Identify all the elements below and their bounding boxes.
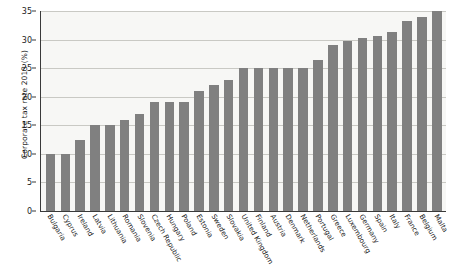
bar[interactable] [224,80,234,211]
bar-slot[interactable] [58,11,73,211]
x-label-slot: Poland [176,213,191,275]
x-label-slot: Luxembourg [339,213,354,275]
bar[interactable] [254,68,264,211]
y-axis-tick-mark [32,153,36,154]
x-label-slot: Finland [250,213,265,275]
x-label-slot: United Kingdom [235,213,250,275]
x-label-slot: Latvia [87,213,102,275]
x-label-slot: Slovakia [220,213,235,275]
x-label-slot: Estonia [191,213,206,275]
bar[interactable] [432,11,442,211]
bar-slot[interactable] [102,11,117,211]
bar[interactable] [194,91,204,211]
bar-slot[interactable] [251,11,266,211]
y-axis-tick-label: 15 [22,121,32,130]
y-axis-tick-mark [32,68,36,69]
bar[interactable] [120,120,130,211]
bar[interactable] [61,154,71,211]
bar-slot[interactable] [385,11,400,211]
bar-slot[interactable] [325,11,340,211]
x-label-slot: Greece [324,213,339,275]
bar[interactable] [283,68,293,211]
plot-area [40,11,446,212]
x-label-slot: Netherlands [295,213,310,275]
bar[interactable] [165,102,175,211]
x-label-slot: Denmark [280,213,295,275]
bar-slot[interactable] [88,11,103,211]
bar-slot[interactable] [221,11,236,211]
x-axis-tick-label: Malta [432,213,449,234]
bar-slot[interactable] [429,11,444,211]
bar-slot[interactable] [400,11,415,211]
y-axis-tick-label: 20 [22,92,32,101]
bar[interactable] [373,36,383,211]
bar-slot[interactable] [340,11,355,211]
bar-slot[interactable] [355,11,370,211]
bar[interactable] [90,125,100,211]
bar-slot[interactable] [177,11,192,211]
y-axis-tick-label: 25 [22,64,32,73]
x-label-slot: Romania [116,213,131,275]
x-label-slot: Slovenia [131,213,146,275]
x-label-slot: Spain [369,213,384,275]
x-label-slot: Hungary [161,213,176,275]
bar[interactable] [105,125,115,211]
y-axis-tick-label: 35 [22,7,32,16]
y-axis-tick-mark [32,125,36,126]
y-axis-tick-mark [32,11,36,12]
x-label-slot: France [399,213,414,275]
bar[interactable] [328,45,338,211]
bar-slot[interactable] [132,11,147,211]
y-axis-tick-label: 10 [22,149,32,158]
bar[interactable] [209,85,219,211]
bar-slot[interactable] [43,11,58,211]
bar[interactable] [150,102,160,211]
bar[interactable] [358,38,368,211]
bar-slot[interactable] [266,11,281,211]
y-axis-tick-mark [32,39,36,40]
bar-slot[interactable] [414,11,429,211]
bar-slot[interactable] [296,11,311,211]
x-label-slot: Italy [384,213,399,275]
x-label-slot: Bulgaria [42,213,57,275]
y-axis-tick-label: 30 [22,35,32,44]
bar[interactable] [269,68,279,211]
bar-slot[interactable] [281,11,296,211]
x-label-slot: Austria [265,213,280,275]
bar[interactable] [402,21,412,211]
x-label-slot: Malta [428,213,443,275]
x-label-slot: Ireland [72,213,87,275]
x-axis-tick-labels: BulgariaCyprusIrelandLatviaLithuaniaRoma… [40,213,445,275]
bar-slot[interactable] [162,11,177,211]
bar-slot[interactable] [236,11,251,211]
bar-slot[interactable] [117,11,132,211]
x-label-slot: Portugal [309,213,324,275]
x-label-slot: Lithuania [101,213,116,275]
bar-slot[interactable] [310,11,325,211]
bar-slot[interactable] [370,11,385,211]
bar-slot[interactable] [192,11,207,211]
x-label-slot: Germany [354,213,369,275]
bar[interactable] [135,114,145,211]
bar[interactable] [343,41,353,211]
bar-chart-figure: Corporate tax rate 2013 (%) 051015202530… [0,0,455,275]
x-label-slot: Cyprus [57,213,72,275]
bar-slot[interactable] [73,11,88,211]
bar-slot[interactable] [147,11,162,211]
bar-slot[interactable] [206,11,221,211]
x-label-slot: Sweden [205,213,220,275]
bar[interactable] [179,102,189,211]
bar-series [41,11,446,211]
x-label-slot: Belgium [413,213,428,275]
y-axis-tick-mark [32,96,36,97]
y-axis-tick-labels: 05101520253035 [0,0,36,215]
bar[interactable] [298,68,308,211]
bar[interactable] [417,17,427,211]
x-label-slot: Czech Republic [146,213,161,275]
y-axis-tick-mark [32,182,36,183]
bar[interactable] [387,32,397,211]
bar[interactable] [46,154,56,211]
bar[interactable] [313,60,323,211]
bar[interactable] [239,68,249,211]
bar[interactable] [75,140,85,211]
